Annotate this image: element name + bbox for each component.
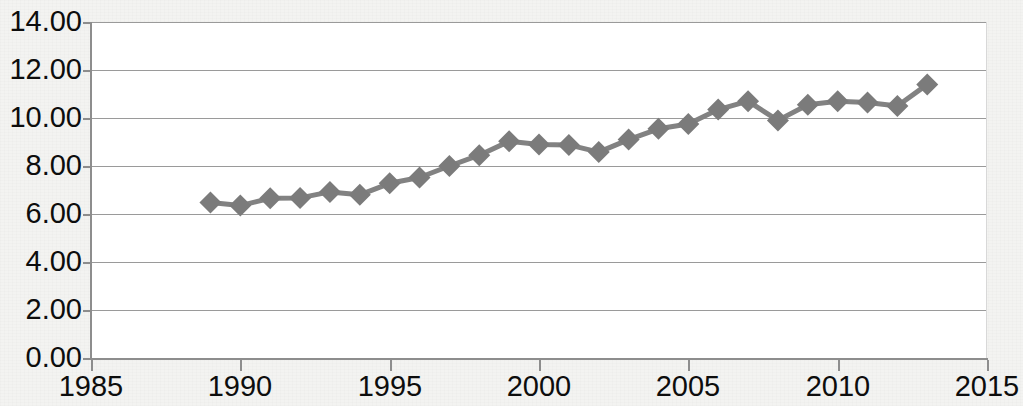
x-axis-tick-label: 1995 xyxy=(330,372,450,401)
y-axis-tick-label: 4.00 xyxy=(0,247,82,276)
y-axis-tick-label: 12.00 xyxy=(0,55,82,84)
y-axis-tick-label: 2.00 xyxy=(0,295,82,324)
y-axis-tick-label: 10.00 xyxy=(0,103,82,132)
x-axis-tick-label: 2000 xyxy=(479,372,599,401)
y-axis-tick-label: 8.00 xyxy=(0,151,82,180)
x-axis-tick-label: 2005 xyxy=(628,372,748,401)
y-axis-labels: 0.002.004.006.008.0010.0012.0014.00 xyxy=(0,0,1023,406)
y-axis-tick-label: 0.00 xyxy=(0,343,82,372)
x-axis-tick-label: 2010 xyxy=(778,372,898,401)
x-axis-tick-label: 1990 xyxy=(180,372,300,401)
y-axis-line xyxy=(90,22,92,359)
y-axis-tick-label: 6.00 xyxy=(0,199,82,228)
y-axis-tick-label: 14.00 xyxy=(0,7,82,36)
chart-container: 0.002.004.006.008.0010.0012.0014.00 1985… xyxy=(0,0,1023,406)
x-axis-tick-label: 1985 xyxy=(31,372,151,401)
x-axis-line xyxy=(90,358,988,360)
x-axis-tick-label: 2015 xyxy=(927,372,1023,401)
